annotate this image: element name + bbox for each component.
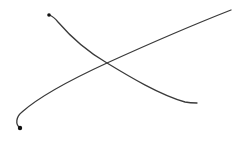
drawing-canvas[interactable] [0, 0, 248, 142]
sketch-svg [0, 0, 248, 142]
pen-stroke-ascending [17, 10, 231, 128]
stroke-start-blob [47, 13, 51, 17]
pen-stroke-descending [49, 15, 197, 103]
stroke-start-blob [18, 126, 22, 130]
